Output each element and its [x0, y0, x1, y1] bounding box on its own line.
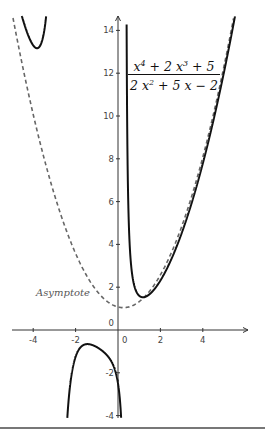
function-branch: [67, 344, 121, 418]
svg-text:10: 10: [103, 111, 114, 121]
svg-text:-4: -4: [29, 335, 37, 345]
svg-text:0: 0: [109, 318, 114, 328]
function-formula: x4 + 2 x3 + 5 2 x2 + 5 x − 2: [128, 56, 220, 93]
svg-text:-4: -4: [106, 411, 114, 421]
svg-text:14: 14: [103, 25, 114, 35]
formula-numerator: x4 + 2 x3 + 5: [128, 56, 220, 75]
svg-text:2: 2: [109, 282, 114, 292]
svg-text:12: 12: [103, 68, 114, 78]
svg-text:4: 4: [109, 239, 114, 249]
svg-text:8: 8: [109, 154, 114, 164]
svg-text:4: 4: [200, 335, 205, 345]
function-branch: [22, 16, 46, 48]
svg-text:-2: -2: [106, 368, 114, 378]
formula-denominator: 2 x2 + 5 x − 2: [128, 75, 220, 93]
svg-text:-2: -2: [71, 335, 79, 345]
svg-text:2: 2: [158, 335, 163, 345]
bottom-divider: [0, 427, 265, 429]
svg-text:0: 0: [122, 335, 127, 345]
asymptote-label: Asymptote: [36, 287, 90, 298]
svg-text:6: 6: [109, 197, 114, 207]
